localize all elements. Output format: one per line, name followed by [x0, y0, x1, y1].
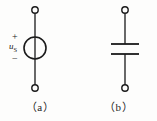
terminal-top-node-b — [122, 7, 128, 13]
panel-capacitor: （b） — [80, 0, 157, 121]
caption-b: （b） — [80, 98, 157, 114]
terminal-bottom-node-b — [122, 85, 128, 91]
voltage-source-label: uS — [9, 42, 17, 53]
panel-voltage-source: + uS − （a） — [0, 0, 80, 121]
circuit-symbols-figure: + uS − （a） （b） — [0, 0, 157, 121]
caption-a: （a） — [0, 98, 80, 114]
polarity-minus-sign: − — [12, 54, 18, 64]
voltage-symbol-subscript: S — [14, 46, 18, 53]
terminal-top-node-a — [32, 7, 38, 13]
capacitor-symbol — [80, 0, 157, 98]
terminal-bottom-node-a — [32, 85, 38, 91]
